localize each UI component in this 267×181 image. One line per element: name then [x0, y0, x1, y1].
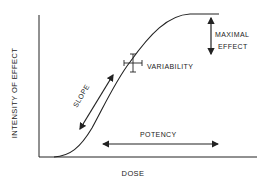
dose-response-diagram: MAXIMAL EFFECT VARIABILITY SLOPE POTENCY…	[0, 0, 267, 181]
variability-label: VARIABILITY	[147, 63, 193, 70]
maximal-effect-label-2: EFFECT	[218, 43, 248, 50]
slope-label: SLOPE	[72, 83, 91, 108]
x-axis-label: DOSE	[122, 169, 145, 178]
dose-response-curve	[54, 14, 219, 157]
maximal-effect-label-1: MAXIMAL	[215, 31, 249, 38]
potency-label: POTENCY	[140, 131, 177, 138]
y-axis-label: INTENSITY OF EFFECT	[10, 48, 19, 138]
slope-arrow	[80, 75, 113, 129]
variability-error-bars	[124, 54, 142, 72]
